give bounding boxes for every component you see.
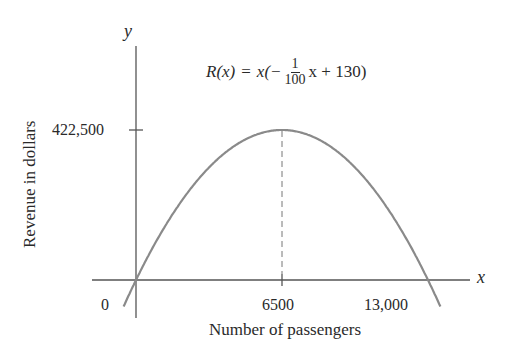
x-tick-label-0: 0	[101, 297, 109, 313]
fraction-numerator: 1	[291, 57, 300, 73]
formula-post: x + 130)	[309, 62, 367, 82]
y-axis-symbol: y	[124, 22, 132, 40]
x-tick-label-6500: 6500	[262, 297, 294, 313]
chart-canvas	[0, 0, 514, 361]
x-axis-label: Number of passengers	[209, 321, 361, 338]
x-tick-label-13000: 13,000	[364, 297, 408, 313]
fraction-denominator: 100	[285, 73, 306, 88]
x-axis-symbol: x	[477, 268, 485, 286]
function-label: R(x) = x(− 1 100 x + 130)	[206, 57, 366, 87]
y-axis-label: Revenue in dollars	[20, 121, 40, 248]
formula-lhs: R(x)	[206, 62, 235, 82]
formula-fraction: 1 100	[285, 57, 306, 87]
y-tick-label: 422,500	[52, 122, 104, 138]
formula-pre: x(−	[257, 62, 282, 82]
formula-eq: =	[241, 62, 251, 82]
